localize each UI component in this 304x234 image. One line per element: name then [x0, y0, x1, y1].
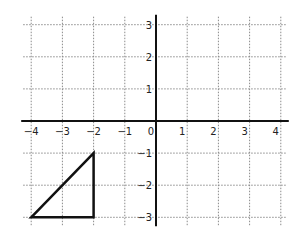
x-tick-label: 4 [273, 126, 279, 137]
x-tick-label: −2 [86, 126, 101, 137]
x-tick-label: 2 [210, 126, 216, 137]
y-tick-label: 3 [146, 20, 152, 31]
y-tick-label: 2 [146, 52, 152, 63]
y-tick-label: −2 [137, 180, 152, 191]
coordinate-plane: −4−3−2−101234−3−2−1123 [0, 0, 304, 234]
x-tick-label: −4 [24, 126, 39, 137]
y-tick-label: 1 [146, 84, 152, 95]
x-tick-label: −3 [55, 126, 70, 137]
x-tick-label: 1 [179, 126, 185, 137]
x-tick-label: 3 [241, 126, 247, 137]
y-tick-label: −3 [137, 212, 152, 223]
x-tick-label: 0 [148, 126, 154, 137]
x-tick-label: −1 [117, 126, 132, 137]
coordinate-grid-svg: −4−3−2−101234−3−2−1123 [0, 0, 304, 234]
y-tick-label: −1 [137, 148, 152, 159]
